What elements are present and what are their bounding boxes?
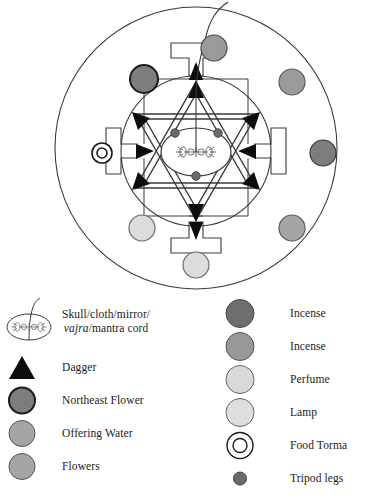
legend-label-perfume: Perfume [290, 364, 330, 395]
legend-label-incense-dark: Incense [290, 298, 326, 329]
legend: Skull/cloth/mirror/ vajra/mantra cord Da… [0, 292, 392, 499]
legend-item-tripod-legs: Tripod legs [218, 463, 392, 494]
legend-item-northeast-flower: Northeast Flower [4, 385, 200, 416]
legend-label-lamp: Lamp [290, 397, 317, 428]
legend-item-dagger: Dagger [4, 352, 200, 383]
tripod-legs-icon [218, 463, 268, 494]
legend-label-food-torma: Food Torma [290, 430, 347, 461]
tripod-leg-3 [192, 172, 200, 180]
lamp-icon [218, 397, 268, 428]
legend-item-incense-dark: Incense [218, 298, 392, 329]
northeast-flower-icon [4, 385, 54, 416]
legend-label-dagger: Dagger [62, 352, 96, 383]
mandala-diagram [0, 0, 392, 292]
legend-item-flowers: Flowers [4, 451, 200, 482]
dagger-east-gate [238, 144, 256, 159]
incense-light-icon [218, 331, 268, 362]
legend-label-line2: vajra/mantra cord [64, 321, 148, 335]
legend-label-vajra-italic: vajra [64, 322, 89, 334]
northeast-corner-circle [279, 69, 305, 95]
vajra-ellipse-icon [4, 298, 54, 342]
flowers-icon [4, 451, 54, 482]
legend-item-skull-cloth-mirror-vajra: Skull/cloth/mirror/ vajra/mantra cord [4, 298, 200, 342]
legend-item-perfume: Perfume [218, 364, 392, 395]
east-gate-circle [310, 140, 336, 166]
legend-label-skull-cloth-mirror-vajra: Skull/cloth/mirror/ vajra/mantra cord [62, 298, 150, 343]
food-torma-icon [218, 430, 268, 461]
legend-label-line1: Skull/cloth/mirror/ [62, 307, 150, 321]
north-gate-circle [201, 35, 227, 61]
southwest-corner-circle [129, 215, 155, 241]
legend-label-tripod-legs: Tripod legs [290, 463, 343, 494]
offering-water-icon [4, 418, 54, 449]
legend-right-column: Incense Incense Perfume [218, 292, 392, 499]
northwest-corner-circle [130, 65, 158, 93]
legend-item-lamp: Lamp [218, 397, 392, 428]
perfume-icon [218, 364, 268, 395]
dagger-south-gate [189, 222, 203, 240]
legend-label-incense-light: Incense [290, 331, 326, 362]
legend-label-flowers: Flowers [62, 451, 100, 482]
legend-label-mantra-cord: /mantra cord [89, 322, 149, 334]
food-torma-circle [92, 143, 112, 163]
legend-left-column: Skull/cloth/mirror/ vajra/mantra cord Da… [4, 292, 200, 499]
legend-label-offering-water: Offering Water [62, 418, 133, 449]
dagger-south [188, 204, 204, 222]
tripod-leg-2 [214, 129, 222, 137]
dagger-west-gate [136, 144, 154, 159]
legend-item-offering-water: Offering Water [4, 418, 200, 449]
dagger-north-gate [189, 62, 203, 80]
legend-label-northeast-flower: Northeast Flower [62, 385, 144, 416]
tripod-leg-1 [171, 129, 179, 137]
legend-item-food-torma: Food Torma [218, 430, 392, 461]
south-gate-circle [183, 252, 209, 278]
dagger-icon [4, 352, 54, 383]
southeast-corner-circle [279, 215, 305, 241]
legend-item-incense-light: Incense [218, 331, 392, 362]
incense-dark-icon [218, 298, 268, 329]
